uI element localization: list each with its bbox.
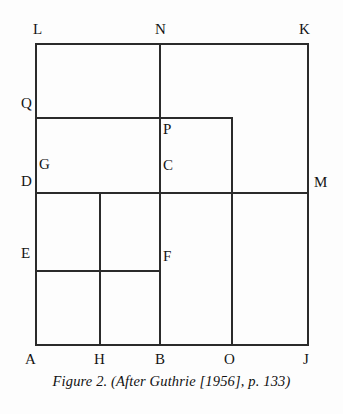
vertex-label-j: J xyxy=(303,352,309,367)
vertex-label-h: H xyxy=(94,352,105,367)
vertex-label-d: D xyxy=(21,174,32,189)
segments-group xyxy=(36,44,308,345)
vertex-label-l: L xyxy=(33,22,42,37)
vertex-label-c: C xyxy=(163,158,173,173)
vertex-label-a: A xyxy=(25,352,36,367)
vertex-label-m: M xyxy=(314,175,327,190)
vertex-label-q: Q xyxy=(21,96,32,111)
vertex-label-f: F xyxy=(163,249,171,264)
vertex-label-b: B xyxy=(155,352,165,367)
geometric-diagram xyxy=(0,0,343,414)
vertex-label-k: K xyxy=(299,22,310,37)
vertex-label-e: E xyxy=(21,246,30,261)
vertex-label-o: O xyxy=(224,352,235,367)
vertex-label-p: P xyxy=(163,122,171,137)
vertex-label-g: G xyxy=(39,157,50,172)
figure-container: LNKQPGCDMEFAHBOJ Figure 2. (After Guthri… xyxy=(0,0,343,414)
figure-caption: Figure 2. (After Guthrie [1956], p. 133) xyxy=(0,373,343,390)
vertex-label-n: N xyxy=(155,22,166,37)
